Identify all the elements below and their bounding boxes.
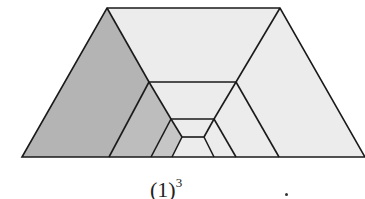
- caption-exponent: 3: [176, 175, 183, 190]
- trapezoid-diagram: [0, 0, 365, 199]
- figure-caption: (1)3: [150, 176, 182, 199]
- stray-dot: [285, 193, 288, 196]
- caption-base: (1): [150, 177, 176, 199]
